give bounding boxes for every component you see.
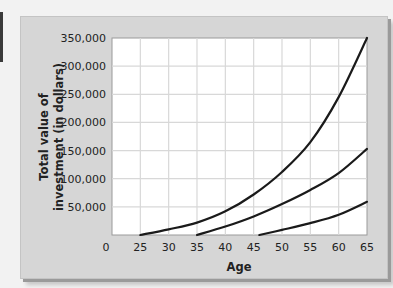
- x-axis-title: Age: [227, 260, 252, 274]
- x-tick-label: 55: [303, 241, 317, 254]
- y-axis-title-line-2: investment (in dollars): [52, 63, 66, 211]
- y-tick-label: 250,000: [61, 88, 107, 101]
- y-tick-label: 200,000: [61, 116, 107, 129]
- y-tick-label: 50,000: [68, 201, 107, 214]
- x-tick-label: 50: [275, 241, 289, 254]
- x-tick-label: 45: [247, 241, 261, 254]
- x-tick-label: 0: [103, 241, 110, 254]
- x-axis-ticks: 0253035404550556065: [103, 241, 375, 254]
- y-tick-label: 300,000: [61, 60, 107, 73]
- y-tick-label: 100,000: [61, 173, 107, 186]
- x-tick-label: 30: [162, 241, 176, 254]
- x-tick-label: 60: [332, 241, 346, 254]
- y-axis-title: Total value of investment (in dollars): [37, 63, 66, 211]
- x-tick-label: 35: [190, 241, 204, 254]
- x-tick-label: 25: [133, 241, 147, 254]
- y-tick-label: 150,000: [61, 145, 107, 158]
- plot-area: [112, 38, 367, 235]
- y-tick-label: 350,000: [61, 32, 107, 45]
- y-axis-ticks: 50,000100,000150,000200,000250,000300,00…: [61, 32, 107, 214]
- y-axis-title-line-1: Total value of: [37, 92, 51, 181]
- line-chart: 50,000100,000150,000200,000250,000300,00…: [0, 0, 393, 288]
- x-tick-label: 40: [218, 241, 232, 254]
- x-tick-label: 65: [360, 241, 374, 254]
